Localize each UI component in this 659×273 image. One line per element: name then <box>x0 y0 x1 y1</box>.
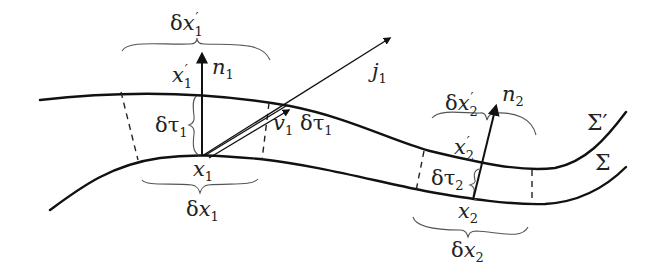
label-dx2: δx2 <box>451 238 484 265</box>
brace-dx1-prime <box>122 38 270 60</box>
svg-text:x1: x1 <box>193 157 213 184</box>
label-x1: x1 <box>193 157 213 184</box>
label-dtau1-left: δτ1 <box>155 113 188 140</box>
brace-dx1 <box>142 179 258 193</box>
boundary-dash-left <box>121 92 138 160</box>
label-dx2-prime: δx′2 <box>445 90 478 119</box>
svg-text:δτ2: δτ2 <box>431 166 464 193</box>
brace-dtau1 <box>189 96 199 155</box>
svg-text:x2: x2 <box>458 199 478 226</box>
svg-text:δx′2: δx′2 <box>445 90 478 119</box>
n2-arrow <box>473 106 496 200</box>
label-x2: x2 <box>458 199 478 226</box>
boundary-dash-mid <box>262 103 269 160</box>
label-sigma-prime: Σ′ <box>587 110 608 135</box>
svg-text:v1: v1 <box>273 111 293 138</box>
label-n1: n1 <box>212 55 234 82</box>
surface-diagram: δx′1 n1 x′1 δτ1 x1 δx1 j1 v1 δτ1 δx′2 n2… <box>0 0 659 273</box>
label-sigma: Σ <box>595 150 611 175</box>
label-v1: v1 <box>273 111 293 138</box>
svg-text:x′1: x′1 <box>172 62 192 91</box>
surface-sigma-prime-curve <box>40 94 626 169</box>
svg-text:δx1: δx1 <box>186 197 219 224</box>
svg-text:δτ1: δτ1 <box>155 113 188 140</box>
svg-text:δx′1: δx′1 <box>170 10 203 39</box>
brace-dx2-prime <box>432 112 536 135</box>
boundary-dash-right1 <box>416 151 424 191</box>
svg-text:n2: n2 <box>502 82 524 109</box>
label-n2: n2 <box>502 82 524 109</box>
label-j1: j1 <box>368 59 387 86</box>
svg-text:n1: n1 <box>212 55 234 82</box>
label-x2-prime: x′2 <box>454 134 474 163</box>
label-x1-prime: x′1 <box>172 62 192 91</box>
label-dtau2: δτ2 <box>431 166 464 193</box>
svg-text:δx2: δx2 <box>451 238 484 265</box>
svg-text:j1: j1 <box>368 59 387 86</box>
label-dx1: δx1 <box>186 197 219 224</box>
surface-sigma-curve <box>50 155 626 210</box>
svg-text:x′2: x′2 <box>454 134 474 163</box>
label-dx1-prime: δx′1 <box>170 10 203 39</box>
